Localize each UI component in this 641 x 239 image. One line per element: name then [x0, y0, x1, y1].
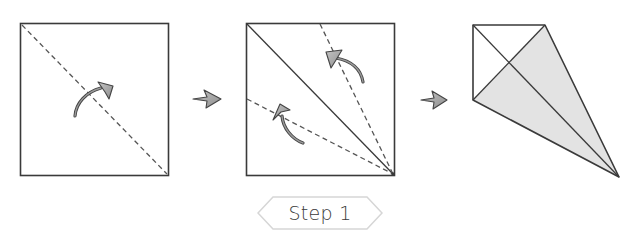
panel-1-square-diagram — [21, 24, 169, 176]
panel-2-square-diagram — [247, 24, 395, 176]
step-label-badge: Step 1 — [257, 196, 383, 230]
next-step-arrow-icon — [193, 90, 221, 108]
next-step-arrow-icon — [421, 91, 447, 109]
step-label-text: Step 1 — [288, 202, 351, 224]
panel-3-kite-diagram — [473, 25, 619, 177]
